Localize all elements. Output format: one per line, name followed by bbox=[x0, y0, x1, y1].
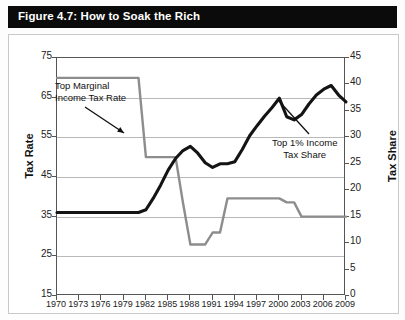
y-axis-left-tick-label: 35 bbox=[22, 209, 52, 220]
y-axis-right-tick-label: 10 bbox=[350, 235, 376, 246]
y-axis-left-tick-label: 65 bbox=[22, 90, 52, 101]
y-axis-right-tick-label: 20 bbox=[350, 182, 376, 193]
y-axis-right-tick-label: 5 bbox=[350, 262, 376, 273]
y-axis-left-title: Tax Rate bbox=[23, 111, 35, 201]
y-axis-right-tick-label: 0 bbox=[350, 288, 376, 299]
y-axis-left-tick-label: 75 bbox=[22, 50, 52, 61]
y-axis-right-tick-label: 35 bbox=[350, 103, 376, 114]
y-axis-right-tick-label: 25 bbox=[350, 156, 376, 167]
annotation-top-1pct-share: Top 1% Income Tax Share bbox=[272, 137, 337, 161]
y-axis-left-tick-label: 25 bbox=[22, 248, 52, 259]
y-axis-right-tick-label: 45 bbox=[350, 50, 376, 61]
figure-title: Figure 4.7: How to Soak the Rich bbox=[18, 10, 200, 22]
annotation-top-marginal-rate: Top Marginal Income Tax Rate bbox=[55, 80, 126, 104]
y-axis-left-tick-label: 55 bbox=[22, 129, 52, 140]
y-axis-right-tick-label: 30 bbox=[350, 129, 376, 140]
y-axis-right-tick-label: 15 bbox=[350, 209, 376, 220]
y-axis-left-tick-label: 45 bbox=[22, 169, 52, 180]
y-axis-right-tick-label: 40 bbox=[350, 76, 376, 87]
x-axis-tick-label: 2009 bbox=[328, 299, 362, 309]
y-axis-right-title: Tax Share bbox=[386, 106, 398, 206]
y-axis-left-tick-label: 15 bbox=[22, 288, 52, 299]
figure-container: Figure 4.7: How to Soak the Rich Tax Rat… bbox=[0, 0, 405, 320]
